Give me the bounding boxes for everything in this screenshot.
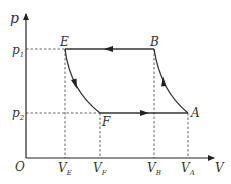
arrow-right-icon (140, 110, 149, 116)
p2-label: p2 (12, 106, 25, 122)
arrow-left-icon (104, 46, 113, 52)
pv-diagram: p V O p1 p2 VE VF VB VA E B F A (0, 0, 231, 184)
point-a-label: A (190, 106, 200, 120)
vf-label: VF (93, 161, 108, 177)
dashed-guides (26, 49, 188, 158)
x-axis-label: V (215, 161, 225, 175)
va-label: VA (181, 161, 195, 177)
p1-label: p1 (12, 43, 24, 59)
origin-label: O (15, 160, 25, 174)
vb-label: VB (147, 161, 161, 177)
ve-label: VE (58, 161, 72, 177)
process-a-b (154, 49, 188, 113)
point-b-label: B (149, 35, 159, 49)
process-e-f (65, 49, 100, 113)
arrow-down-icon (71, 79, 77, 90)
y-axis-label: p (10, 10, 19, 26)
point-e-label: E (59, 35, 69, 49)
point-f-label: F (101, 115, 111, 129)
direction-arrows (71, 46, 167, 116)
